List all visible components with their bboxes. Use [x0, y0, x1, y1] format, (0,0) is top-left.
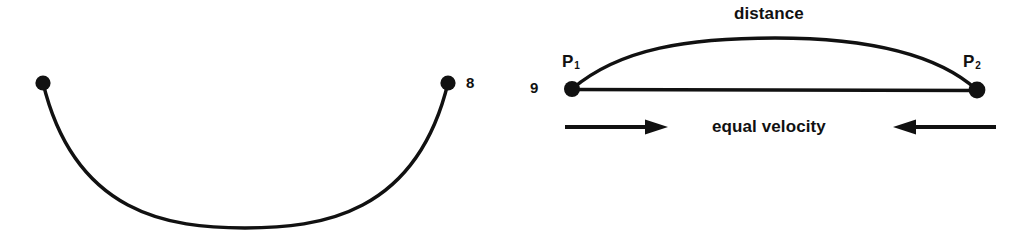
figure-8-group [35, 75, 455, 228]
curve-right-endpoint-dot [440, 75, 455, 90]
point-p2-letter: P [963, 52, 974, 71]
point-p1-label: P1 [562, 53, 579, 70]
figure-sheet: 8 9 P1 P2 distance equal velocity [0, 0, 1025, 239]
curve-left-endpoint-dot [35, 75, 50, 90]
distance-label: distance [734, 5, 804, 22]
equal-velocity-label: equal velocity [712, 118, 826, 135]
left-velocity-arrow [565, 120, 668, 135]
figure-9-number: 9 [530, 80, 538, 95]
figures-drawing-canvas [0, 0, 1025, 239]
point-p1-dot [564, 81, 580, 97]
chord-baseline-path [572, 90, 977, 91]
point-p2-label: P2 [963, 53, 980, 70]
figure-8-number: 8 [466, 75, 474, 90]
right-arrow-head [893, 120, 916, 135]
left-arrow-head [645, 120, 668, 135]
distance-arc-path [572, 38, 977, 90]
point-p1-letter: P [562, 52, 573, 71]
point-p2-subscript: 2 [975, 60, 981, 71]
point-p1-subscript: 1 [574, 60, 580, 71]
sagging-curve-path [43, 83, 448, 228]
right-velocity-arrow [893, 120, 996, 135]
point-p2-dot [969, 82, 986, 99]
